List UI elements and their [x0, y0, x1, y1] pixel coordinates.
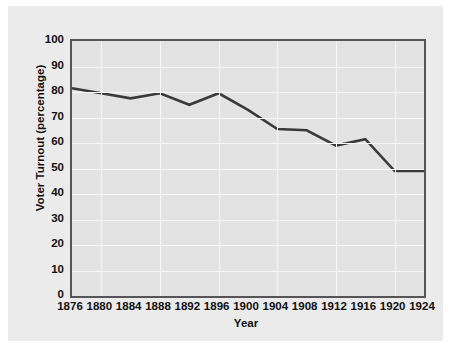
series-line	[72, 88, 424, 171]
y-tick-label: 60	[12, 135, 64, 147]
gridline-horizontal	[72, 92, 424, 93]
y-tick-label: 30	[12, 212, 64, 224]
y-tick-label: 40	[12, 186, 64, 198]
gridline-horizontal	[72, 143, 424, 144]
y-tick-label: 20	[12, 237, 64, 249]
plot-area	[70, 39, 426, 298]
y-tick-label: 90	[12, 59, 64, 71]
y-axis-tick-labels: 1009080706050403020100	[8, 39, 64, 294]
gridline-horizontal	[72, 220, 424, 221]
gridline-vertical	[336, 41, 337, 296]
gridline-vertical	[395, 41, 396, 296]
x-tick-label: 1924	[400, 299, 444, 313]
y-tick-label: 50	[12, 161, 64, 173]
gridline-horizontal	[72, 245, 424, 246]
y-tick-label: 100	[12, 33, 64, 45]
y-tick-label: 80	[12, 84, 64, 96]
x-axis-tick-labels: 1876188018841888189218961900190419081912…	[70, 299, 422, 315]
gridline-horizontal	[72, 118, 424, 119]
chart-card: Voter Turnout (percentage) 1009080706050…	[8, 6, 443, 341]
gridline-horizontal	[72, 271, 424, 272]
chart-figure: Voter Turnout (percentage) 1009080706050…	[0, 0, 451, 348]
y-tick-label: 10	[12, 263, 64, 275]
gridline-vertical	[219, 41, 220, 296]
x-axis-title: Year	[70, 317, 422, 329]
gridline-horizontal	[72, 169, 424, 170]
gridline-vertical	[277, 41, 278, 296]
gridline-horizontal	[72, 194, 424, 195]
gridline-vertical	[101, 41, 102, 296]
y-tick-label: 70	[12, 110, 64, 122]
gridline-horizontal	[72, 67, 424, 68]
gridline-vertical	[160, 41, 161, 296]
plot-inner	[72, 41, 424, 296]
